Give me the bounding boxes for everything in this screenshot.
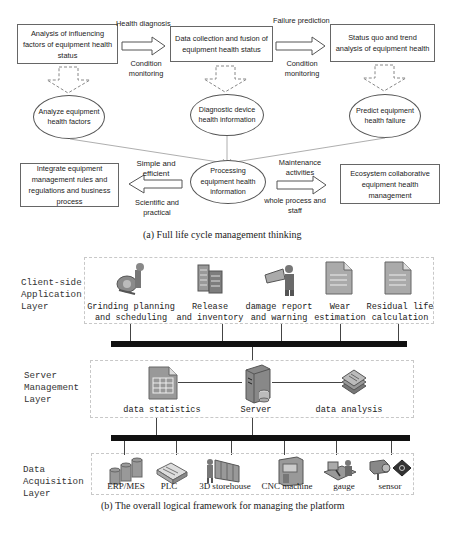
connector-line: [272, 382, 342, 383]
storehouse-icon: [203, 456, 241, 484]
label-wear-estimation: Wear estimation: [313, 302, 367, 324]
arrow-right-icon: [277, 176, 327, 196]
label-grinding-planning: Grinding planning and scheduling: [86, 302, 176, 324]
layer-label-data: Data Acquisition Layer: [23, 464, 84, 500]
label-simple-efficient: Simple and efficient: [130, 159, 182, 179]
label-cnc-machine: CNC machine: [255, 481, 319, 492]
label-release-inventory: Release and inventory: [172, 302, 248, 324]
network-bus-bottom: [111, 435, 410, 441]
server-icon: [242, 364, 274, 404]
sensor-icon: [368, 458, 412, 482]
inventory-building-icon: [196, 263, 226, 295]
label-3d-storehouse: 3D storehouse: [193, 481, 257, 492]
label-whole-process-staff: whole process and staff: [262, 196, 328, 216]
document-stack-icon: [340, 368, 368, 396]
layer-label-client: Client-side Application Layer: [21, 277, 82, 313]
network-bus-top: [111, 341, 407, 347]
ellipse-processing-info: Processing equipment health information: [190, 160, 266, 204]
box-ecosystem-management: Ecosystem collaborative equipment health…: [340, 164, 440, 204]
caption-b: (b) The overall logical framework for ma…: [101, 500, 345, 511]
connector-line: [156, 418, 157, 436]
label-data-analysis: data analysis: [312, 405, 386, 416]
report-worker-icon: [263, 261, 297, 297]
label-server: Server: [236, 405, 276, 416]
label-maintenance-activities: Maintenance activities: [270, 158, 330, 178]
label-damage-report: damage report and warning: [244, 302, 314, 324]
label-erp-mes: ERP/MES: [104, 481, 148, 492]
label-data-statistics: data statistics: [118, 405, 206, 416]
layer-label-server: Server Management Layer: [24, 370, 79, 406]
grinding-machine-icon: [113, 260, 149, 296]
spreadsheet-icon: [148, 366, 178, 400]
label-scientific-practical: Scientific and practical: [128, 198, 186, 218]
label-plc: PLC: [158, 481, 180, 492]
connector-line: [178, 382, 242, 383]
box-integrate-rules: Integrate equipment management rules and…: [20, 163, 119, 207]
label-residual-life: Residual life calculation: [365, 302, 435, 324]
document-icon: [384, 261, 412, 295]
caption-a: (a) Full life cycle management thinking: [143, 229, 302, 240]
label-sensor: sensor: [372, 481, 408, 492]
connector-line: [252, 418, 253, 436]
label-gauge: gauge: [326, 481, 362, 492]
document-icon: [325, 261, 353, 295]
connector-line: [252, 347, 253, 361]
